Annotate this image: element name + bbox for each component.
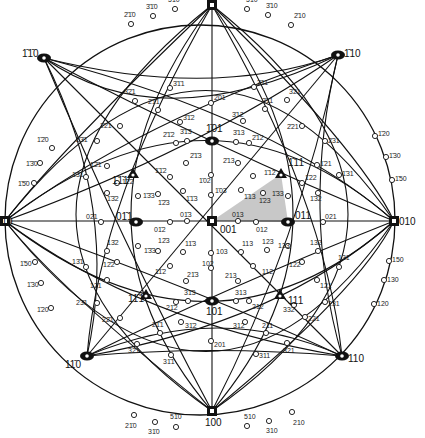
minor-pole: 013 [232, 211, 244, 224]
minor-pole: 2̄2̄1 [100, 122, 123, 129]
major-pole: 010 [0, 216, 13, 227]
minor-pole: 31̄2 [178, 319, 196, 329]
pole-label: 121 [320, 282, 332, 289]
pole-label: 2̄1̄1 [148, 98, 160, 105]
major-poles: 1̄001000100100011̄1̄01̄1011̄01101̄011010… [0, 0, 416, 428]
pole-label: 131 [338, 254, 350, 261]
pole-label: 12̄1 [90, 282, 102, 289]
pole-marker-icon [208, 100, 213, 105]
minor-pole: 12̄2 [103, 259, 120, 268]
pole-label: 23̄1 [76, 299, 88, 306]
minor-pole: 311 [253, 351, 270, 359]
minor-pole: 123 [262, 238, 274, 253]
pole-marker-icon [233, 298, 238, 303]
minor-pole: 1̄20 [37, 305, 54, 313]
pole-label: 1̄11 [288, 157, 304, 168]
pole-marker-icon [155, 248, 160, 253]
minor-pole: 1̄30 [27, 280, 44, 288]
pole-marker-icon [253, 351, 258, 356]
pole-marker-icon [240, 118, 245, 123]
pole-label: 1̄1̄1 [112, 175, 129, 186]
minor-pole: 1̄2̄3 [155, 191, 169, 206]
pole-marker-icon [233, 139, 238, 144]
pole-label: 21̄3 [187, 271, 199, 278]
minor-pole: 1̄20 [372, 130, 389, 139]
minor-pole: 11̄3 [180, 240, 196, 255]
major-pole: 100 [205, 406, 222, 428]
minor-pole: 3̄12 [232, 111, 246, 124]
pole-label: 3̄21 [289, 88, 301, 95]
pole-marker-icon [246, 298, 251, 303]
pole-marker-icon [246, 140, 251, 145]
pole-marker-icon [389, 177, 394, 182]
pole-marker-icon [132, 98, 137, 103]
minor-pole: 5̄10 [244, 0, 257, 12]
pole-label: 120 [377, 300, 389, 307]
pole-label: 101 [206, 306, 223, 317]
minor-pole: 1̄50 [20, 259, 38, 267]
pole-label: 3̄12 [232, 111, 244, 118]
minor-pole: 1̄30 [383, 152, 400, 160]
pole-label: 013 [232, 211, 244, 218]
minor-pole: 13̄1 [72, 258, 89, 270]
pole-marker-icon [173, 424, 178, 429]
pole-label: 11̄0 [65, 359, 81, 370]
pole-marker-icon [285, 193, 290, 198]
minor-pole: 1̄3̄0 [26, 160, 43, 167]
pole-marker-icon [49, 145, 54, 150]
major-pole: 1̄10 [331, 48, 361, 60]
major-pole: 1̄00 [206, 0, 223, 10]
minor-pole: 210 [289, 409, 304, 426]
pole-marker-icon [32, 259, 37, 264]
major-pole: 010 [389, 216, 416, 227]
pole-label: 1̄31 [342, 170, 354, 177]
pole-marker-icon [117, 123, 122, 128]
minor-pole: 1̄22 [299, 174, 316, 186]
minor-pole: 510 [244, 413, 256, 429]
pole-marker-icon [250, 173, 255, 178]
pole-label: 311 [259, 352, 270, 359]
pole-marker-icon [104, 248, 109, 253]
minor-pole: 2̄1̄0 [124, 11, 136, 27]
pole-marker-icon [264, 247, 269, 252]
pole-marker-icon [94, 300, 99, 305]
pole-label: 332 [283, 306, 295, 313]
pole-marker-icon [253, 219, 258, 224]
pole-label: 01̄2 [154, 226, 166, 233]
pole-label: 1̄22 [305, 174, 317, 181]
pole-marker-icon [235, 160, 240, 165]
pole-marker-icon [104, 163, 109, 168]
minor-pole: 2̄1̄3 [183, 152, 201, 166]
minor-pole: 3̄11 [251, 79, 268, 90]
minor-pole: 221 [302, 314, 319, 322]
pole-label: 2̄3̄1 [76, 136, 88, 143]
minor-pole: 150 [386, 256, 403, 264]
pole-label: 5̄1̄0 [168, 0, 180, 3]
minor-pole: 01̄3 [180, 211, 192, 224]
pole-label: 100 [205, 417, 222, 428]
pole-marker-icon [177, 119, 182, 124]
pole-marker-icon [135, 243, 140, 248]
pole-label: 103 [216, 248, 228, 255]
pole-label: 213 [225, 272, 237, 279]
pole-label: 123 [262, 238, 274, 245]
pole-label: 010 [399, 216, 416, 227]
pole-label: 31̄0 [148, 428, 160, 435]
minor-pole: 2̄13 [223, 157, 241, 166]
pole-marker-icon [128, 21, 133, 26]
pole-label: 1̄21 [320, 160, 332, 167]
pole-marker-icon [208, 338, 213, 343]
pole-marker-icon [238, 249, 243, 254]
pole-marker-icon [315, 248, 320, 253]
pole-marker-icon [94, 138, 99, 143]
minor-pole: 5̄1̄0 [168, 0, 180, 12]
pole-label: 313 [235, 289, 247, 296]
minor-pole: 231 [322, 299, 339, 307]
major-pole: 1̄01 [205, 123, 223, 146]
minor-pole: 2̄31 [322, 137, 339, 144]
major-pole: 11̄0 [65, 352, 94, 371]
great-circle-arc [44, 55, 338, 78]
pole-label: 1̄2̄3 [158, 199, 170, 206]
minor-pole: 133 [278, 242, 291, 249]
pole-marker-icon [167, 263, 172, 268]
